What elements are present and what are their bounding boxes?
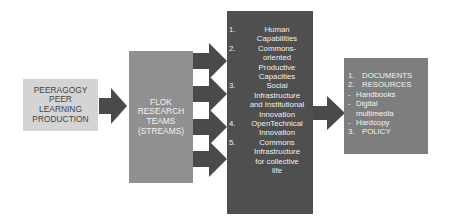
line-prefix: - xyxy=(348,90,356,99)
arrow-right-icon xyxy=(193,76,227,112)
capacity-item: 3. Social Infrastructure and Institution… xyxy=(229,81,311,119)
output-line: -Hardcopy xyxy=(348,118,426,127)
capacities-box: 1. Human Capabilities 2. Commons- orient… xyxy=(227,11,313,214)
line-prefix: 2. xyxy=(348,80,362,89)
line-text: POLICY xyxy=(362,127,391,136)
item-line: and Institutional xyxy=(243,100,311,109)
line-text: Hardcopy xyxy=(356,118,389,127)
line-text: RESOURCES xyxy=(362,80,411,89)
item-line: OpenTechnical xyxy=(243,119,311,128)
arrow-right-icon xyxy=(193,141,227,177)
line-prefix: - xyxy=(348,99,356,108)
item-line: for collective xyxy=(243,157,311,166)
arrow-right-icon xyxy=(313,96,345,130)
item-line: Infrastructure xyxy=(243,147,311,156)
line-prefix xyxy=(348,109,356,118)
item-line: life xyxy=(243,166,311,175)
flok-research-teams-box: FLOK RESEARCH TEAMS (STREAMS) xyxy=(129,51,193,183)
line-text: DOCUMENTS xyxy=(362,71,412,80)
line-prefix: 1. xyxy=(348,71,362,80)
outputs-box: 1.DOCUMENTS 2.RESOURCES -Handbooks -Digi… xyxy=(344,58,428,154)
item-line: Infrastructure xyxy=(243,91,311,100)
capacity-item: 2. Commons- oriented Productive Capaciti… xyxy=(229,44,311,82)
item-number: 1. xyxy=(229,25,243,44)
item-line: Commons xyxy=(243,138,311,147)
output-line: multimedia xyxy=(348,109,426,118)
flok-line: (STREAMS) xyxy=(129,127,193,137)
output-line: -Handbooks xyxy=(348,90,426,99)
item-number: 3. xyxy=(229,81,243,119)
capacity-item: 5. Commons Infrastructure for collective… xyxy=(229,138,311,176)
line-text: multimedia xyxy=(356,109,394,118)
arrow-right-icon xyxy=(193,43,227,79)
item-number: 2. xyxy=(229,44,243,82)
output-line: 2.RESOURCES xyxy=(348,80,426,89)
line-prefix: 3. xyxy=(348,127,362,136)
line-prefix: - xyxy=(348,118,356,127)
item-line: Innovation xyxy=(243,128,311,137)
item-line: Capacities xyxy=(243,72,311,81)
peeragogy-line: PRODUCTION xyxy=(23,115,98,125)
item-number: 4. xyxy=(229,119,243,138)
item-line: Capabilities xyxy=(243,34,311,43)
output-line: 3.POLICY xyxy=(348,127,426,136)
output-line: -Digital xyxy=(348,99,426,108)
item-line: Innovation xyxy=(243,110,311,119)
peeragogy-box: PEERAGOGY PEER LEARNING PRODUCTION xyxy=(23,79,98,131)
line-text: Digital xyxy=(356,99,378,108)
arrow-right-icon xyxy=(99,88,127,124)
item-number: 5. xyxy=(229,138,243,176)
item-line: Productive xyxy=(243,63,311,72)
arrow-right-icon xyxy=(193,109,227,145)
capacity-item: 1. Human Capabilities xyxy=(229,25,311,44)
output-line: 1.DOCUMENTS xyxy=(348,71,426,80)
item-line: Commons- xyxy=(243,44,311,53)
capacity-item: 4. OpenTechnical Innovation xyxy=(229,119,311,138)
item-line: Social xyxy=(243,81,311,90)
line-text: Handbooks xyxy=(356,90,395,99)
item-line: Human xyxy=(243,25,311,34)
item-line: oriented xyxy=(243,53,311,62)
